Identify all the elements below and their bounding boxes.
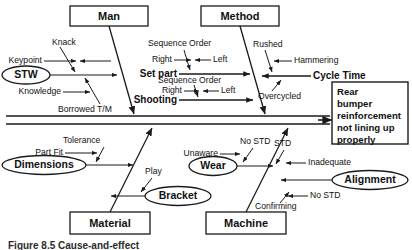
twig-overcycled: [272, 80, 281, 91]
figure-caption-group: Figure 8.5 Cause-and-effect: [8, 240, 140, 250]
label-knack: Knack: [52, 37, 77, 47]
label-play: Play: [145, 166, 162, 176]
label-sequence-order-1: Sequence Order: [148, 38, 211, 48]
category-label-machine: Machine: [224, 217, 268, 229]
branch-man-group: Knack Keypoint STW Knowledge Borrowed T/…: [2, 37, 117, 114]
label-no-std-1: No STD: [240, 136, 271, 146]
label-borrowed-tm: Borrowed T/M: [58, 104, 112, 114]
label-tolerance: Tolerance: [63, 135, 100, 145]
label-shooting: Shooting: [134, 94, 177, 105]
twig-tolerance: [96, 147, 104, 162]
label-hammering: Hammering: [294, 55, 339, 65]
label-right-1: Right: [152, 54, 173, 64]
label-unaware: Unaware: [184, 148, 219, 158]
effect-box-group: Rear bumper reinforcement not lining up …: [332, 82, 408, 145]
label-part-fit: Part Fit: [35, 147, 63, 157]
label-knowledge: Knowledge: [18, 86, 61, 96]
label-left-2: Left: [221, 85, 236, 95]
label-left-1: Left: [213, 54, 228, 64]
rib-man: [109, 26, 134, 114]
branch-method-group: Set part Sequence Order Right Left Shoot…: [134, 38, 366, 104]
label-rushed: Rushed: [253, 39, 283, 49]
twig-play: [141, 178, 152, 192]
label-cycle-time: Cycle Time: [313, 70, 366, 81]
figure-caption: Figure 8.5 Cause-and-effect: [8, 240, 140, 250]
branch-machine-group: Wear No STD Unaware STD Inadequate Align…: [184, 136, 408, 211]
label-alignment: Alignment: [344, 173, 396, 185]
label-keypoint: Keypoint: [9, 55, 43, 65]
label-no-std-2: No STD: [310, 190, 341, 200]
fishbone-diagram-page: Rear bumper reinforcement not lining up …: [0, 0, 412, 250]
twig-std: [276, 150, 284, 164]
effect-line-2: bumper: [337, 98, 372, 109]
effect-line-1: Rear: [337, 86, 359, 97]
twig-knack: [60, 47, 75, 72]
twig-no-std-1: [243, 148, 253, 162]
label-bracket: Bracket: [159, 189, 198, 201]
label-wear: Wear: [200, 159, 226, 171]
fishbone-diagram-svg: Rear bumper reinforcement not lining up …: [0, 0, 412, 250]
category-label-man: Man: [98, 10, 120, 22]
category-label-method: Method: [220, 10, 259, 22]
label-overcycled: Overcycled: [258, 91, 301, 101]
label-inadequate: Inadequate: [308, 157, 351, 167]
branch-material-group: Dimensions Tolerance Part Fit Bracket Pl…: [2, 135, 211, 205]
spine-group: [6, 116, 332, 124]
twig-borrowed-tm: [85, 78, 100, 104]
label-std: STD: [274, 138, 291, 148]
effect-line-3: reinforcement: [337, 110, 402, 121]
category-label-material: Material: [89, 217, 131, 229]
label-dimensions: Dimensions: [14, 158, 74, 170]
label-right-2: Right: [162, 85, 183, 95]
effect-line-4: not lining up: [337, 122, 395, 133]
label-stw: STW: [14, 68, 37, 80]
twig-rushed: [265, 50, 272, 72]
label-sequence-order-2: Sequence Order: [158, 75, 221, 85]
label-confirming: Confirming: [255, 201, 297, 211]
effect-line-5: properly: [337, 134, 376, 145]
